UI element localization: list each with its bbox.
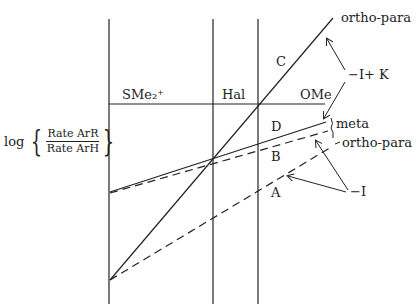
line-label-b: B [271, 149, 281, 164]
arrow-i-to-a [288, 176, 346, 192]
line-d [110, 122, 326, 192]
right-brace-icon: } [103, 126, 114, 156]
effect-label-minus-i: −I [350, 184, 366, 199]
diagram-canvas: SMe₂⁺ Hal OMe C D B A ortho-para meta or… [0, 0, 416, 304]
column-label-ome: OMe [300, 87, 332, 102]
line-label-d: D [271, 119, 281, 134]
left-brace-icon: { [31, 126, 42, 156]
line-b [110, 131, 328, 193]
line-a [110, 146, 333, 280]
meta-bracket-icon [331, 118, 333, 138]
column-label-sme2: SMe₂⁺ [122, 87, 164, 102]
line-c [110, 18, 333, 280]
effect-label-minus-i-plus-k: −I+ K [348, 67, 389, 82]
end-label-ortho-para-top: ortho-para [341, 10, 411, 25]
end-label-ortho-para-lower: ortho-para [342, 135, 412, 150]
end-label-meta: meta [336, 116, 369, 131]
arrow-ik-to-c [327, 39, 345, 70]
y-axis-log: log [4, 134, 24, 149]
y-axis-fraction: Rate ArR Rate ArH [46, 127, 99, 156]
ortho-para-leader [335, 142, 340, 144]
y-axis-numerator: Rate ArR [46, 127, 99, 142]
y-axis-denominator: Rate ArH [47, 142, 99, 156]
line-label-a: A [270, 185, 281, 200]
y-axis-label: log { Rate ArR Rate ArH } [4, 126, 119, 156]
column-label-hal: Hal [222, 87, 245, 102]
line-label-c: C [276, 54, 286, 69]
